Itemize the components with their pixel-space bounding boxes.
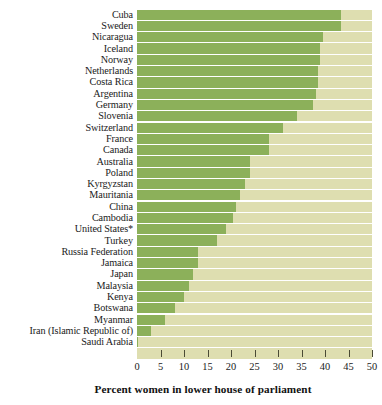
row-label: Malaysia	[0, 280, 133, 291]
row-track	[137, 247, 372, 257]
row-track	[137, 134, 372, 144]
row-label: Norway	[0, 55, 133, 66]
row-bar	[137, 258, 198, 268]
chart-row: Iceland	[0, 43, 382, 54]
row-track	[137, 303, 372, 313]
row-bar	[137, 145, 269, 155]
row-track	[137, 111, 372, 121]
row-label: United States*	[0, 224, 133, 235]
chart-row: Sweden	[0, 20, 382, 31]
axis-tick-label: 20	[219, 361, 243, 373]
axis-tick-label: 25	[243, 361, 267, 373]
row-label: Slovenia	[0, 111, 133, 122]
row-bar	[137, 21, 341, 31]
chart-row: Jamaica	[0, 258, 382, 269]
row-label: Australia	[0, 156, 133, 167]
row-label: France	[0, 134, 133, 145]
row-bar	[137, 168, 250, 178]
row-bar	[137, 281, 189, 291]
row-track	[137, 21, 372, 31]
chart-rows: CubaSwedenNicaraguaIcelandNorwayNetherla…	[0, 9, 382, 348]
row-track	[137, 43, 372, 53]
row-track	[137, 100, 372, 110]
axis-tick	[349, 350, 350, 357]
row-track	[137, 202, 372, 212]
bar-chart: CubaSwedenNicaraguaIcelandNorwayNetherla…	[0, 0, 382, 405]
row-bar	[137, 100, 313, 110]
row-track	[137, 179, 372, 189]
row-bar	[137, 134, 269, 144]
chart-row: Cambodia	[0, 212, 382, 223]
chart-row: Switzerland	[0, 122, 382, 133]
axis-tick-label: 40	[313, 361, 337, 373]
row-track	[137, 156, 372, 166]
axis-tick-label: 35	[290, 361, 314, 373]
axis-tick-label: 0	[125, 361, 149, 373]
row-label: Nicaragua	[0, 32, 133, 43]
axis-tick	[325, 350, 326, 357]
chart-row: Japan	[0, 269, 382, 280]
chart-row: Argentina	[0, 88, 382, 99]
axis-tick	[208, 350, 209, 357]
row-bar	[137, 156, 250, 166]
row-label: Mauritania	[0, 190, 133, 201]
row-bar	[137, 269, 193, 279]
row-bar	[137, 179, 245, 189]
chart-row: Russia Federation	[0, 246, 382, 257]
chart-row: Canada	[0, 145, 382, 156]
row-label: Cuba	[0, 9, 133, 20]
axis-tick-label: 15	[196, 361, 220, 373]
x-axis-title: Percent women in lower house of parliame…	[0, 382, 382, 396]
row-bar	[137, 303, 175, 313]
row-label: Kenya	[0, 292, 133, 303]
row-bar	[137, 315, 165, 325]
axis-tick-label: 10	[172, 361, 196, 373]
row-track	[137, 281, 372, 291]
chart-row: Mauritania	[0, 190, 382, 201]
chart-row: Poland	[0, 167, 382, 178]
row-label: China	[0, 201, 133, 212]
x-axis-tick-labels: 05101520253035404550	[125, 361, 382, 375]
row-track	[137, 235, 372, 245]
row-bar	[137, 55, 320, 65]
chart-row: Nicaragua	[0, 32, 382, 43]
row-bar	[137, 292, 184, 302]
row-track	[137, 292, 372, 302]
row-bar	[137, 190, 240, 200]
axis-tick	[302, 350, 303, 357]
row-label: Poland	[0, 168, 133, 179]
row-track	[137, 213, 372, 223]
chart-row: China	[0, 201, 382, 212]
row-bar	[137, 247, 198, 257]
row-bar	[137, 235, 217, 245]
chart-row: Kyrgyzstan	[0, 178, 382, 189]
row-label: Costa Rica	[0, 77, 133, 88]
row-label: Saudi Arabia	[0, 337, 133, 348]
axis-tick-label: 30	[266, 361, 290, 373]
row-track	[137, 89, 372, 99]
chart-row: Germany	[0, 99, 382, 110]
row-label: Switzerland	[0, 122, 133, 133]
row-label: Russia Federation	[0, 247, 133, 258]
axis-tick	[255, 350, 256, 357]
row-bar	[137, 123, 283, 133]
chart-row: Malaysia	[0, 280, 382, 291]
row-label: Myanmar	[0, 314, 133, 325]
row-bar	[137, 89, 316, 99]
row-track	[137, 326, 372, 336]
row-label: Japan	[0, 269, 133, 280]
axis-tick	[231, 350, 232, 357]
row-track	[137, 145, 372, 155]
axis-tick-label: 45	[337, 361, 361, 373]
chart-row: Slovenia	[0, 111, 382, 122]
row-track	[137, 258, 372, 268]
row-label: Germany	[0, 100, 133, 111]
row-label: Iceland	[0, 43, 133, 54]
row-track	[137, 10, 372, 20]
row-track	[137, 269, 372, 279]
row-track	[137, 190, 372, 200]
chart-row: Myanmar	[0, 314, 382, 325]
chart-row: Netherlands	[0, 65, 382, 76]
axis-tick	[372, 350, 373, 357]
row-bar	[137, 111, 297, 121]
